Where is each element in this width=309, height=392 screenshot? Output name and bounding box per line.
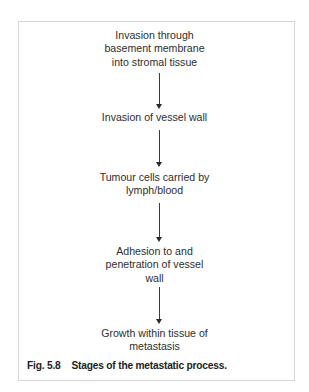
- figure-number: Fig. 5.8: [27, 360, 61, 371]
- step-invasion-basement-membrane: Invasion through basement membrane into …: [0, 29, 309, 69]
- down-arrow-icon: [158, 73, 160, 110]
- step-growth-metastasis: Growth within tissue of metastasis: [0, 327, 309, 354]
- step-tumour-cells-carried: Tumour cells carried by lymph/blood: [0, 171, 309, 198]
- down-arrow-icon: [158, 203, 160, 243]
- step-adhesion-penetration: Adhesion to and penetration of vessel wa…: [0, 245, 309, 285]
- step-line: Invasion through: [0, 29, 309, 42]
- step-invasion-vessel-wall: Invasion of vessel wall: [0, 111, 309, 124]
- down-arrow-icon: [158, 130, 160, 168]
- step-line: Tumour cells carried by: [0, 171, 309, 184]
- step-line: penetration of vessel: [0, 258, 309, 271]
- step-line: metastasis: [0, 340, 309, 353]
- step-line: basement membrane: [0, 42, 309, 55]
- step-line: into stromal tissue: [0, 56, 309, 69]
- step-line: lymph/blood: [0, 184, 309, 197]
- step-line: Invasion of vessel wall: [0, 111, 309, 124]
- step-line: Growth within tissue of: [0, 327, 309, 340]
- figure-caption: Fig. 5.8Stages of the metastatic process…: [27, 360, 227, 371]
- step-line: wall: [0, 272, 309, 285]
- down-arrow-icon: [158, 287, 160, 325]
- figure-caption-text: Stages of the metastatic process.: [72, 360, 227, 371]
- step-line: Adhesion to and: [0, 245, 309, 258]
